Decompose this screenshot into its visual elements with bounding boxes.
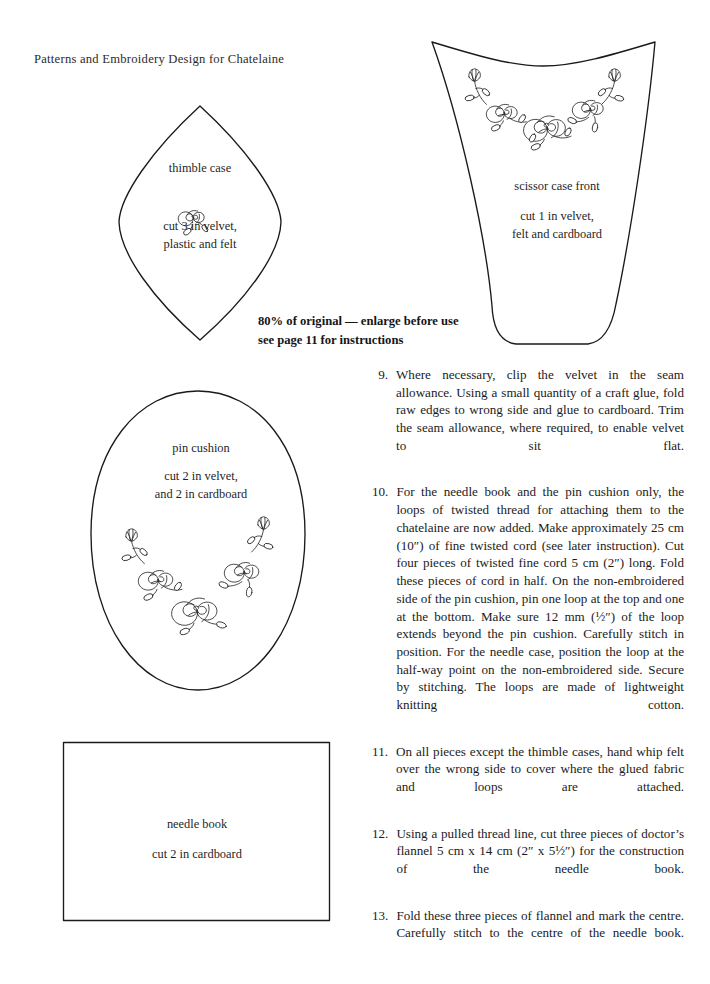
- needle-book-title: needle book: [64, 816, 330, 834]
- thimble-case-cut-instruction: cut 3 in velvet, plastic and felt: [117, 218, 283, 253]
- running-head: Patterns and Embroidery Design for Chate…: [34, 52, 284, 67]
- instruction-number: 11.: [372, 743, 396, 761]
- instruction-number: 10.: [372, 483, 396, 501]
- instruction-number: 9.: [372, 366, 396, 384]
- instruction-text: For the needle book and the pin cushion …: [396, 483, 684, 731]
- instruction-number: 13.: [372, 907, 396, 925]
- instruction-list: 9. Where necessary, clip the velvet in t…: [372, 366, 684, 971]
- pin-cushion-garland-motif: [121, 517, 273, 636]
- scale-notice: 80% of original — enlarge before use see…: [258, 312, 488, 350]
- instruction-item: 9. Where necessary, clip the velvet in t…: [372, 366, 684, 472]
- instruction-text: Fold these three pieces of flannel and m…: [396, 907, 684, 960]
- scissor-case-cut-instruction: cut 1 in velvet, felt and cardboard: [452, 208, 662, 243]
- thimble-case-title: thimble case: [117, 160, 283, 178]
- needle-book-cut-instruction: cut 2 in cardboard: [64, 846, 330, 864]
- instruction-text: Using a pulled thread line, cut three pi…: [396, 825, 684, 896]
- document-page: Patterns and Embroidery Design for Chate…: [0, 0, 710, 984]
- instruction-item: 12. Using a pulled thread line, cut thre…: [372, 825, 684, 896]
- scale-notice-line-2: see page 11 for instructions: [258, 331, 488, 350]
- scissor-case-garland-motif: [465, 69, 625, 151]
- instruction-text: On all pieces except the thimble cases, …: [396, 743, 684, 814]
- pin-cushion-cut-instruction: cut 2 in velvet, and 2 in cardboard: [96, 468, 306, 503]
- scissor-case-title: scissor case front: [452, 178, 662, 196]
- scale-notice-line-1: 80% of original — enlarge before use: [258, 312, 488, 331]
- pin-cushion-outline: [91, 391, 305, 690]
- instruction-item: 11. On all pieces except the thimble cas…: [372, 743, 684, 814]
- instruction-number: 12.: [372, 825, 396, 843]
- pin-cushion-title: pin cushion: [96, 440, 306, 458]
- instruction-item: 10. For the needle book and the pin cush…: [372, 483, 684, 731]
- instruction-item: 13. Fold these three pieces of flannel a…: [372, 907, 684, 960]
- instruction-text: Where necessary, clip the velvet in the …: [396, 366, 684, 472]
